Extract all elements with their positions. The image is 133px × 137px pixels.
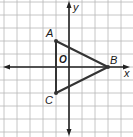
point-a	[54, 39, 58, 43]
origin-label: O	[59, 54, 67, 65]
grid-lines	[0, 0, 133, 137]
point-label-c: C	[45, 94, 53, 106]
y-axis-arrow-down-icon	[67, 129, 72, 136]
coordinate-plane-svg: x y O ABC	[0, 0, 133, 137]
x-axis-label: x	[123, 67, 130, 79]
axes: x y O	[3, 1, 130, 136]
y-axis-label: y	[72, 1, 80, 13]
point-c	[54, 91, 58, 95]
coordinate-plane: x y O ABC	[0, 0, 133, 137]
point-label-b: B	[110, 54, 117, 66]
point-label-a: A	[45, 27, 53, 39]
